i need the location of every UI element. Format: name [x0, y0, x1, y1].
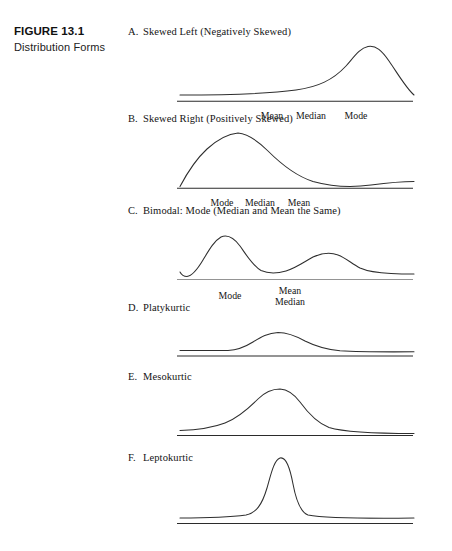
- panel-b-letter: B.: [128, 113, 143, 124]
- axis-label-mode: Mode: [219, 290, 242, 302]
- panel-f-plot: [128, 448, 428, 528]
- panel-skewed-left: A.Skewed Left (Negatively Skewed) Mean M…: [128, 26, 428, 108]
- panel-b-title: B.Skewed Right (Positively Skewed): [128, 113, 293, 124]
- panel-platykurtic: D.Platykurtic: [128, 302, 428, 358]
- panel-a-curve: [180, 46, 414, 95]
- panel-a-letter: A.: [128, 26, 143, 37]
- panel-e-letter: E.: [128, 371, 143, 382]
- panel-c-title: C.Bimodal: Mode (Median and Mean the Sam…: [128, 205, 341, 216]
- panel-d-title: D.Platykurtic: [128, 302, 190, 313]
- panel-d-curve: [180, 333, 414, 352]
- panel-d-letter: D.: [128, 302, 143, 313]
- panel-skewed-right: B.Skewed Right (Positively Skewed) Mode …: [128, 113, 428, 195]
- panel-a-plot: [128, 38, 428, 104]
- figure-caption: FIGURE 13.1 Distribution Forms: [14, 24, 124, 54]
- axis-label-mean: Mean: [279, 285, 301, 297]
- panel-c-curve: [180, 236, 414, 276]
- panel-a-title-text: Skewed Left (Negatively Skewed): [143, 26, 291, 37]
- panel-e-curve: [180, 389, 414, 434]
- panel-f-curve: [180, 458, 414, 518]
- panel-bimodal: C.Bimodal: Mode (Median and Mean the Sam…: [128, 205, 428, 297]
- figure-number: FIGURE 13.1: [14, 24, 124, 39]
- panel-mesokurtic: E.Mesokurtic: [128, 371, 428, 439]
- panel-leptokurtic: F.Leptokurtic: [128, 452, 428, 532]
- panel-d-plot: [128, 318, 428, 358]
- panel-c-title-text: Bimodal: Mode (Median and Mean the Same): [143, 205, 341, 216]
- panel-e-plot: [128, 383, 428, 437]
- panel-b-title-text: Skewed Right (Positively Skewed): [143, 113, 293, 124]
- figure-caption-text: Distribution Forms: [14, 40, 124, 54]
- panel-c-plot: [128, 218, 428, 280]
- panel-b-plot: [128, 125, 428, 191]
- panel-e-title: E.Mesokurtic: [128, 371, 192, 382]
- panel-e-title-text: Mesokurtic: [143, 371, 192, 382]
- panel-a-title: A.Skewed Left (Negatively Skewed): [128, 26, 291, 37]
- panel-b-curve: [180, 133, 414, 187]
- panel-c-letter: C.: [128, 205, 143, 216]
- panel-d-title-text: Platykurtic: [143, 302, 190, 313]
